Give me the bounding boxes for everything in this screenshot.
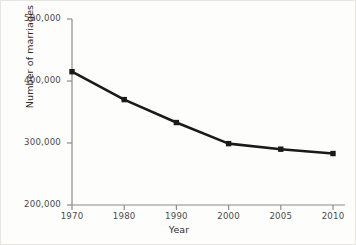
data-point-marker-2000 [226, 141, 231, 146]
y-axis-title: Number of marriages [24, 0, 35, 137]
data-point-marker-1970 [69, 69, 74, 74]
data-point-markers [69, 69, 335, 156]
y-tick-label: 200,000 [13, 199, 61, 209]
x-axis-title: Year [1, 224, 356, 235]
data-point-marker-1990 [174, 120, 179, 125]
y-tick-label: 400,000 [13, 75, 61, 85]
y-tick-label: 300,000 [13, 137, 61, 147]
x-tick-label: 1980 [100, 211, 148, 221]
data-line-series [72, 72, 333, 154]
data-point-marker-2005 [278, 147, 283, 152]
data-point-marker-2010 [330, 151, 335, 156]
y-axis-ticks [67, 19, 72, 205]
marriages-line-chart: 200,000300,000400,000500,000 19701980199… [0, 0, 356, 245]
x-tick-label: 1970 [48, 211, 96, 221]
x-axis-ticks [72, 205, 333, 210]
x-tick-label: 2005 [257, 211, 305, 221]
data-point-marker-1980 [122, 97, 127, 102]
y-tick-label: 500,000 [13, 13, 61, 23]
x-tick-label: 2000 [205, 211, 253, 221]
x-tick-label: 2010 [309, 211, 356, 221]
x-tick-label: 1990 [152, 211, 200, 221]
